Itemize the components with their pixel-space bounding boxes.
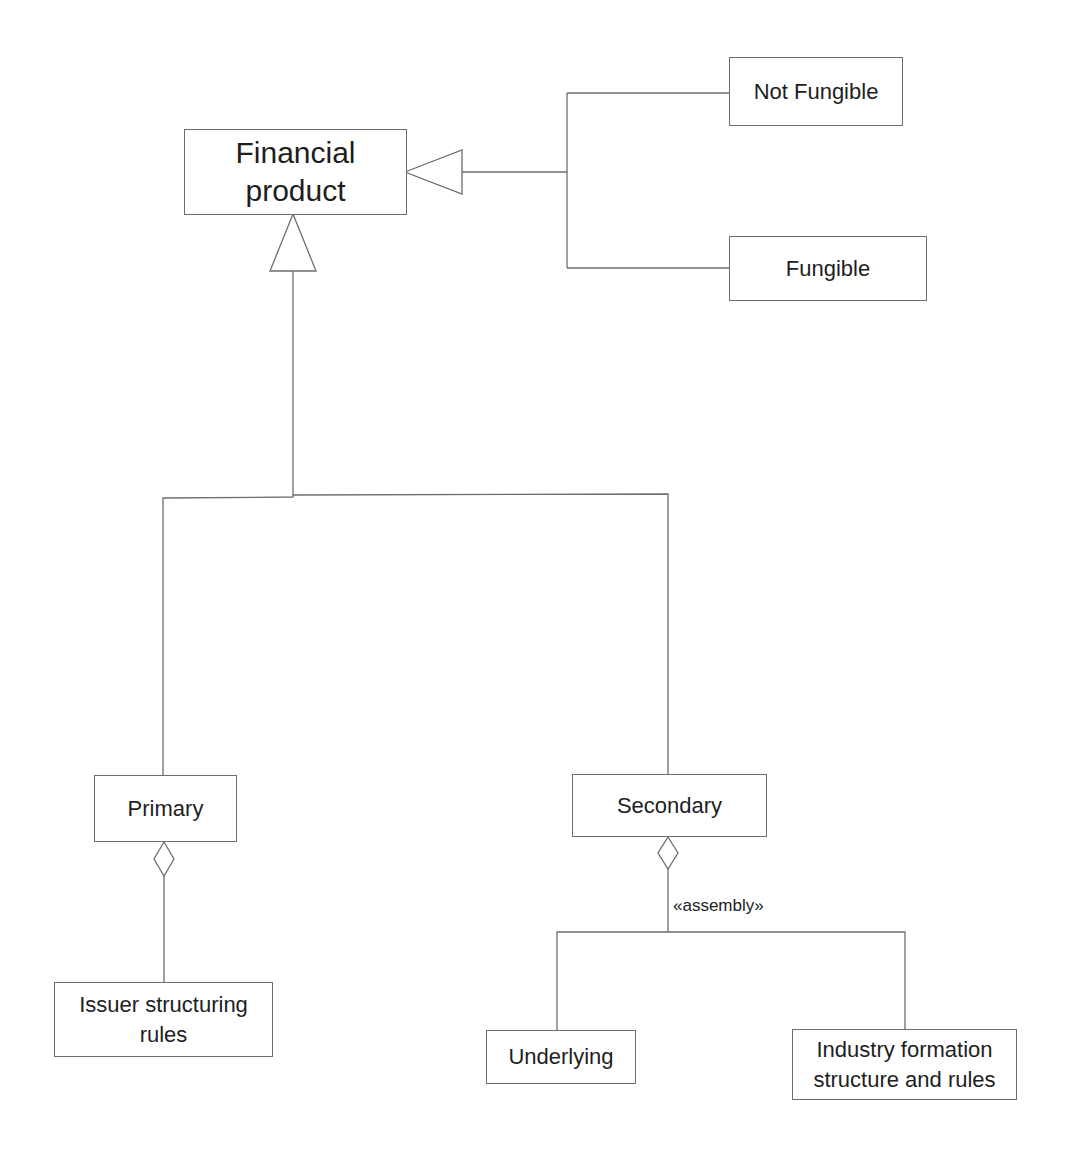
class-fungible[interactable]: Fungible: [729, 236, 927, 301]
class-primary[interactable]: Primary: [94, 775, 237, 842]
class-secondary[interactable]: Secondary: [572, 774, 767, 837]
class-underlying[interactable]: Underlying: [486, 1030, 636, 1084]
class-label: Industry formation structure and rules: [813, 1035, 995, 1095]
aggregation-diamond-icon: [154, 842, 174, 876]
class-label: Secondary: [617, 791, 722, 821]
class-label: Not Fungible: [754, 77, 879, 107]
class-label: Underlying: [508, 1042, 613, 1072]
class-not-fungible[interactable]: Not Fungible: [729, 57, 903, 126]
class-financial-product[interactable]: Financial product: [184, 129, 407, 215]
class-label: Primary: [128, 794, 204, 824]
class-issuer-structuring-rules[interactable]: Issuer structuring rules: [54, 982, 273, 1057]
generalization-arrow-icon: [270, 214, 316, 271]
class-label: Financial product: [235, 134, 355, 210]
generalization-arrow-icon: [405, 150, 462, 194]
assembly-stereotype-label: «assembly»: [673, 896, 764, 916]
class-industry-formation-rules[interactable]: Industry formation structure and rules: [792, 1029, 1017, 1100]
aggregation-diamond-icon: [658, 837, 678, 869]
class-label: Issuer structuring rules: [79, 990, 248, 1050]
class-label: Fungible: [786, 254, 870, 284]
